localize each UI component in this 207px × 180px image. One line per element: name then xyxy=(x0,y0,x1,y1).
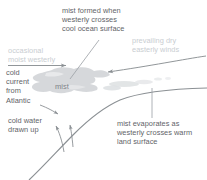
upwelling-arrows xyxy=(56,125,73,152)
mist-cloud-blob xyxy=(32,67,110,93)
label-mist: mist xyxy=(55,82,69,91)
cold-current-arrow xyxy=(40,105,58,114)
label-occasional-westerly: occasional moist westerly xyxy=(8,46,55,64)
mist-wisps xyxy=(103,77,171,90)
label-mist-formed: mist formed when westerly crosses cool o… xyxy=(62,6,124,34)
coastal-mist-diagram: mist formed when westerly crosses cool o… xyxy=(0,0,207,180)
label-cold-current: cold current from Atlantic xyxy=(6,68,30,105)
label-mist-evaporates: mist evaporates as westerly crosses warm… xyxy=(117,119,192,147)
label-cold-water-drawn-up: cold water drawn up xyxy=(8,116,42,134)
label-prevailing-winds: prevailing dry easterly winds xyxy=(132,36,179,54)
easterly-wind-arrow xyxy=(108,56,206,72)
